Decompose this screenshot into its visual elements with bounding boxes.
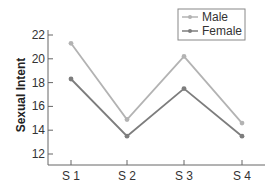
data-point xyxy=(182,54,187,59)
x-tick-label: S 1 xyxy=(62,169,80,183)
series-lines xyxy=(69,41,245,139)
legend-label-female: Female xyxy=(202,24,242,38)
data-point xyxy=(240,121,245,126)
line-chart: Sexual Intent 121416182022 S 1S 2S 3S 4 … xyxy=(0,0,275,189)
legend: Male Female xyxy=(178,9,245,40)
x-tick-label: S 4 xyxy=(233,169,251,183)
data-point xyxy=(182,86,187,91)
data-point xyxy=(240,134,245,139)
data-point xyxy=(125,134,130,139)
x-tick-label: S 2 xyxy=(118,169,136,183)
y-axis: 121416182022 xyxy=(32,28,53,165)
data-point xyxy=(69,77,74,82)
y-tick-label: 14 xyxy=(32,123,46,137)
data-point xyxy=(69,41,74,46)
legend-label-male: Male xyxy=(202,10,228,24)
y-tick-label: 16 xyxy=(32,99,46,113)
x-tick-label: S 3 xyxy=(175,169,193,183)
y-tick-label: 18 xyxy=(32,76,46,90)
x-axis: S 1S 2S 3S 4 xyxy=(48,160,265,183)
y-axis-title: Sexual Intent xyxy=(14,58,28,133)
y-tick-label: 12 xyxy=(32,147,46,161)
y-tick-label: 20 xyxy=(32,52,46,66)
data-point xyxy=(125,117,130,122)
y-tick-label: 22 xyxy=(32,28,46,42)
